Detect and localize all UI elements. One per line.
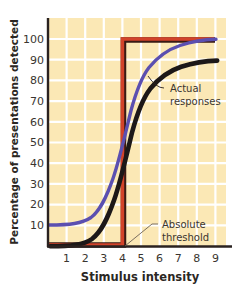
y-tick-100: 100 bbox=[23, 33, 44, 46]
annotation-actual-line1: Actual bbox=[170, 83, 201, 94]
psychometric-chart: 10 20 30 40 50 60 70 80 90 100 1 2 3 4 5… bbox=[0, 0, 245, 294]
plot-area bbox=[48, 18, 226, 246]
y-tick-20: 20 bbox=[30, 198, 44, 211]
x-tick-5: 5 bbox=[138, 252, 145, 265]
x-tick-1: 1 bbox=[63, 252, 70, 265]
annotation-actual-line2: responses bbox=[170, 96, 221, 107]
x-tick-6: 6 bbox=[156, 252, 163, 265]
y-tick-labels: 10 20 30 40 50 60 70 80 90 100 bbox=[23, 33, 44, 232]
y-tick-40: 40 bbox=[30, 157, 44, 170]
annotation-threshold-line2: threshold bbox=[162, 232, 209, 243]
y-axis-title: Percentage of presentations detected bbox=[8, 19, 20, 244]
x-tick-4: 4 bbox=[119, 252, 126, 265]
y-tick-60: 60 bbox=[30, 116, 44, 129]
x-axis-title: Stimulus intensity bbox=[81, 270, 200, 284]
y-tick-30: 30 bbox=[30, 178, 44, 191]
x-tick-8: 8 bbox=[193, 252, 200, 265]
x-tick-7: 7 bbox=[175, 252, 182, 265]
x-tick-2: 2 bbox=[82, 252, 89, 265]
y-tick-10: 10 bbox=[30, 219, 44, 232]
x-tick-3: 3 bbox=[100, 252, 107, 265]
x-tick-9: 9 bbox=[212, 252, 219, 265]
y-tick-50: 50 bbox=[30, 136, 44, 149]
y-tick-80: 80 bbox=[30, 74, 44, 87]
y-tick-90: 90 bbox=[30, 54, 44, 67]
annotation-threshold-line1: Absolute bbox=[162, 219, 206, 230]
x-tick-labels: 1 2 3 4 5 6 7 8 9 bbox=[63, 252, 219, 265]
y-tick-70: 70 bbox=[30, 95, 44, 108]
